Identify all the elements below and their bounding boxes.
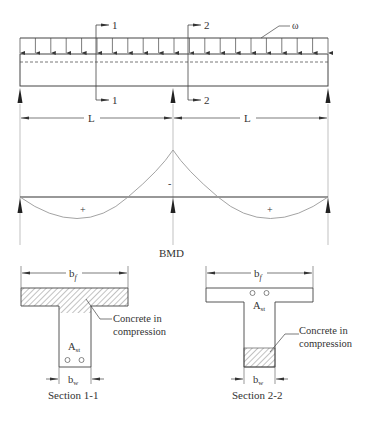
- section-2-bw-label: bw: [253, 374, 264, 387]
- section-1-compression-zone: [21, 288, 128, 313]
- span-label-left: L: [88, 112, 95, 124]
- section-2-compression-zone: [244, 348, 275, 367]
- section-1-compression-label-2: compression: [113, 326, 167, 337]
- bmd-support-left-icon: [18, 198, 23, 213]
- section-2-caption: Section 2-2: [232, 389, 282, 401]
- section-2-top-label: 2: [204, 19, 210, 31]
- section-1-top-label: 1: [112, 19, 118, 31]
- rebar-icon: [79, 358, 84, 363]
- section-cut-1: [96, 25, 109, 100]
- bmd-sagging-sign-left: +: [80, 204, 86, 215]
- bmd-support-right-icon: [326, 198, 331, 213]
- bending-moment-diagram: - + + BMD: [18, 150, 331, 259]
- load-leader: [261, 26, 279, 38]
- rebar-icon: [250, 291, 255, 296]
- bmd-support-middle-icon: [171, 198, 176, 213]
- section-1-bottom-label: 1: [112, 94, 118, 106]
- section-2-bf-label: bf: [254, 267, 264, 282]
- section-2-compression-label-1: Concrete in: [299, 325, 348, 336]
- bmd-title: BMD: [159, 247, 184, 259]
- section-cut-2: [188, 25, 201, 100]
- support-left-icon: [18, 88, 23, 103]
- section-2-compression-label-2: compression: [299, 338, 353, 349]
- section-1-ast-label: Ast: [68, 341, 80, 354]
- rebar-icon: [264, 291, 269, 296]
- section-1-compression-label-1: Concrete in: [113, 313, 162, 324]
- bmd-hogging-sign: -: [168, 178, 171, 189]
- section-1-1: bf Concrete in compression Ast bw Sectio…: [21, 266, 167, 401]
- load-label: ω: [292, 20, 299, 31]
- section-1-bw-label: bw: [68, 374, 79, 387]
- span-label-right: L: [244, 112, 251, 124]
- bmd-sagging-sign-right: +: [267, 204, 273, 215]
- continuous-beam-diagram: ω 1 1 2 2 L: [0, 0, 375, 421]
- section-1-bf-label: bf: [69, 267, 79, 282]
- rebar-icon: [65, 358, 70, 363]
- section-2-2: bf Ast Concrete in compression bw Sectio…: [206, 266, 353, 401]
- beam-body: [20, 54, 328, 86]
- section-2-ast-label: Ast: [253, 300, 265, 313]
- section-2-bottom-label: 2: [204, 94, 210, 106]
- support-middle-icon: [171, 88, 176, 103]
- support-right-icon: [326, 88, 331, 103]
- udl-arrows: [20, 38, 328, 53]
- section-1-caption: Section 1-1: [48, 389, 98, 401]
